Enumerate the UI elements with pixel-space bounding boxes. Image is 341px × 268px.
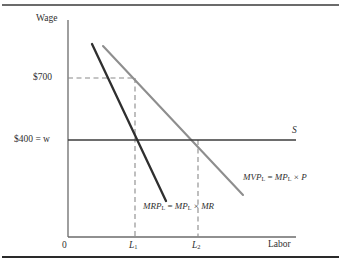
mrp-main: MRP [143, 201, 162, 211]
mrp-rhs-sub: L [188, 205, 192, 211]
mvp-main: MVP [243, 172, 262, 182]
x-axis-label: Labor [268, 240, 291, 250]
mrp-operator: = [167, 201, 172, 211]
mvp-operator: = [267, 172, 272, 182]
l2-sub: 2 [197, 243, 200, 250]
mvp-curve-label: MVPL = MPL × P [243, 173, 307, 182]
y-tick-label-700: $700 [33, 73, 52, 83]
mvp-curve [103, 46, 243, 195]
x-tick-label-l1: L1 [129, 241, 138, 251]
mvp-sub: L [262, 176, 266, 182]
mrp-curve [92, 44, 166, 201]
mvp-rhs-main: MP [275, 172, 288, 182]
l1-sub: 1 [134, 243, 137, 250]
supply-curve-label: S [292, 126, 297, 136]
mrp-curve-label: MRPL = MPL × MR [143, 202, 214, 211]
mvp-rhs-sub: L [288, 176, 292, 182]
labor-market-figure: Wage Labor $700 $400 = w 0 L1 L2 S MVPL … [0, 0, 341, 268]
mrp-rhs-main: MP [175, 201, 188, 211]
origin-label: 0 [62, 241, 67, 251]
mrp-times-icon: × [194, 201, 199, 211]
x-tick-label-l2: L2 [192, 241, 201, 251]
mrp-rhs-tail: MR [201, 201, 214, 211]
plot-canvas [0, 0, 341, 268]
mrp-sub: L [162, 205, 166, 211]
y-tick-400-text: $400 = w [14, 134, 50, 144]
mvp-rhs-tail: P [301, 172, 307, 182]
mvp-times-icon: × [294, 172, 299, 182]
y-tick-label-400: $400 = w [14, 135, 50, 145]
y-axis-label: Wage [36, 14, 57, 24]
